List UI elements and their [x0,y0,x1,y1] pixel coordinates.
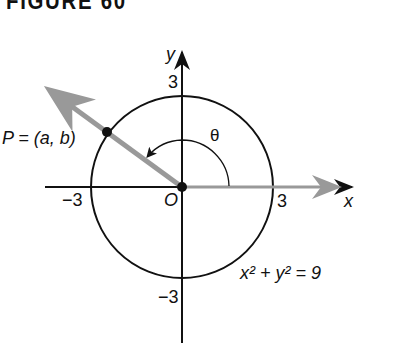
y-neg-tick: −3 [158,287,179,307]
y-axis-label: y [164,44,176,64]
origin-dot [177,182,187,192]
circle-equation: x² + y² = 9 [239,263,321,283]
x-pos-tick: 3 [277,191,287,211]
origin-label: O [164,190,178,210]
point-p-dot [102,127,112,137]
x-neg-tick: −3 [62,190,83,210]
angle-arc [148,140,229,186]
y-pos-tick: 3 [168,72,178,92]
point-p-label: P = (a, b) [2,128,76,148]
x-axis-label: x [343,191,354,211]
theta-label: θ [210,126,219,145]
unit-circle-diagram: y x O 3 −3 3 −3 P = (a, b) θ x² + y² = 9 [0,0,394,353]
